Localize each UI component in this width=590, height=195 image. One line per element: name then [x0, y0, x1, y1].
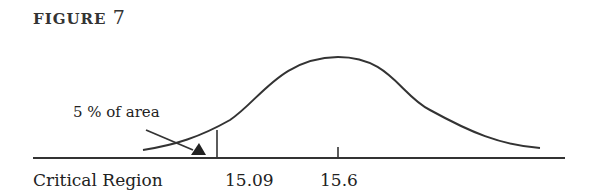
- normal-curve: [143, 57, 540, 150]
- arrowhead-icon: [191, 143, 206, 155]
- mean-label: 15.6: [320, 170, 358, 190]
- critical-value-label: 15.09: [225, 170, 274, 190]
- area-annotation: 5 % of area: [73, 103, 160, 121]
- distribution-chart: [0, 0, 590, 195]
- critical-region-label: Critical Region: [33, 170, 163, 190]
